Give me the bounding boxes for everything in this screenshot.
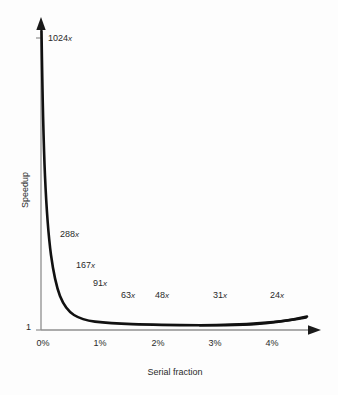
- speedup-curve: [42, 31, 308, 325]
- data-label-288x-value: 288: [60, 229, 75, 239]
- data-label-48x-value: 48: [155, 290, 165, 300]
- data-label-31x-value: 31: [213, 290, 223, 300]
- data-label-63x: 63x: [121, 290, 135, 301]
- data-label-63x-value: 63: [121, 290, 131, 300]
- data-label-167x: 167x: [76, 260, 95, 271]
- y-axis-arrowhead: [36, 17, 45, 30]
- x-axis-title: Serial fraction: [132, 367, 218, 377]
- data-label-31x: 31x: [213, 290, 227, 301]
- data-label-91x-value: 91: [93, 278, 103, 288]
- x-tick-label-4: 4%: [260, 338, 284, 348]
- speedup-curve-tail: [200, 318, 306, 326]
- x-tick-label-0: 0%: [31, 338, 55, 348]
- data-label-24x-value: 24: [270, 290, 280, 300]
- x-tick-label-2: 2%: [146, 338, 170, 348]
- data-label-48x: 48x: [155, 290, 169, 301]
- data-label-288x: 288x: [60, 229, 79, 240]
- data-label-48x-suffix: x: [165, 291, 169, 300]
- data-label-31x-suffix: x: [223, 291, 227, 300]
- data-label-91x: 91x: [93, 278, 107, 289]
- data-label-167x-value: 167: [76, 260, 91, 270]
- x-tick-label-1: 1%: [88, 338, 112, 348]
- data-label-63x-suffix: x: [131, 291, 135, 300]
- chart-canvas: [0, 0, 338, 395]
- data-label-167x-suffix: x: [91, 261, 95, 270]
- y-axis-max-label: 1024x: [48, 33, 72, 44]
- y-axis-max-value: 1024: [48, 33, 68, 43]
- amdahl-speedup-chart: 1024x 1 288x 167x 91x 63x 48x 31x 24x 0%…: [0, 0, 338, 395]
- y-axis-title: Speedup: [20, 163, 30, 218]
- y-axis-max-suffix: x: [68, 34, 72, 43]
- data-label-24x: 24x: [270, 290, 284, 301]
- data-label-288x-suffix: x: [75, 230, 79, 239]
- x-tick-label-3: 3%: [203, 338, 227, 348]
- x-axis-arrowhead: [308, 325, 321, 334]
- data-label-91x-suffix: x: [103, 279, 107, 288]
- y-axis-min-label: 1: [26, 322, 31, 332]
- data-label-24x-suffix: x: [280, 291, 284, 300]
